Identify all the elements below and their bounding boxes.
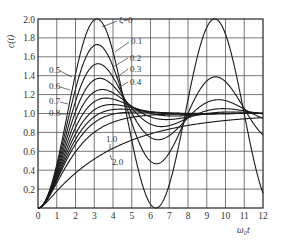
x-axis-title: ω₀t	[237, 225, 250, 235]
leader-line	[115, 42, 129, 52]
x-tick-label: 12	[258, 211, 268, 221]
y-tick-label: 1.6	[23, 52, 35, 62]
x-tick-label: 11	[240, 211, 249, 221]
y-tick-label: 2.0	[23, 15, 35, 25]
y-tick-label: 0.4	[23, 166, 35, 176]
leader-line	[60, 102, 68, 104]
step-response-chart: 0123456789101112 0.20.40.60.81.01.21.41.…	[0, 0, 285, 241]
y-tick-label: 1.8	[23, 33, 35, 43]
y-tick-label: 1.4	[23, 71, 35, 81]
x-tick-label: 0	[36, 211, 41, 221]
series-label-0.7: 0.7	[49, 96, 61, 106]
x-axis-ticks: 0123456789101112	[36, 211, 268, 221]
y-axis-ticks: 0.20.40.60.81.01.21.41.61.82.0	[23, 15, 35, 195]
series-label-0.5: 0.5	[49, 65, 61, 75]
series-label-ξ=0: ξ=0	[119, 15, 133, 25]
series-label-0.2: 0.2	[130, 53, 141, 63]
y-tick-label: 0.2	[23, 185, 35, 195]
y-tick-label: 1.2	[23, 90, 35, 100]
y-axis-title: c(t)	[6, 35, 17, 48]
y-tick-label: 0.6	[23, 147, 35, 157]
x-tick-label: 1	[54, 211, 59, 221]
x-tick-label: 5	[129, 211, 134, 221]
series-label-0.1: 0.1	[131, 36, 142, 46]
series-label-0.4: 0.4	[130, 77, 142, 87]
leader-line	[102, 21, 117, 27]
x-tick-label: 3	[92, 211, 97, 221]
x-tick-label: 9	[204, 211, 209, 221]
y-tick-label: 0.8	[23, 128, 35, 138]
series-label-1.0: 1.0	[106, 134, 118, 144]
x-tick-label: 4	[111, 211, 116, 221]
series-label-0.3: 0.3	[130, 64, 142, 74]
series-label-0.6: 0.6	[49, 81, 61, 91]
x-tick-label: 2	[73, 211, 78, 221]
x-tick-label: 7	[167, 211, 172, 221]
leader-line	[60, 87, 70, 90]
series-label-0.8: 0.8	[49, 108, 61, 118]
y-tick-label: 1.0	[23, 109, 35, 119]
x-tick-label: 8	[186, 211, 191, 221]
x-tick-label: 10	[221, 211, 231, 221]
series-label-2.0: 2.0	[112, 157, 124, 167]
x-tick-label: 6	[148, 211, 153, 221]
